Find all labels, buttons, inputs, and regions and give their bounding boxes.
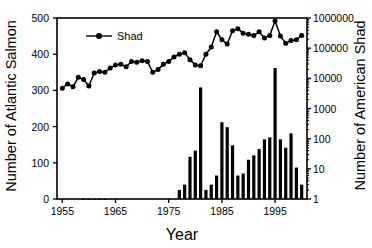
salmon-point-1996 <box>278 34 283 39</box>
plot-area <box>0 0 372 248</box>
bar-1998 <box>289 133 292 199</box>
salmon-point-1999 <box>294 37 299 42</box>
salmon-point-1960 <box>86 84 91 89</box>
salmon-point-1964 <box>108 65 113 70</box>
salmon-point-1957 <box>70 84 75 89</box>
bar-1961 <box>93 199 96 200</box>
bar-1999 <box>295 168 298 199</box>
salmon-point-1993 <box>262 35 267 40</box>
salmon-point-1985 <box>219 37 224 42</box>
salmon-point-1976 <box>172 55 177 60</box>
salmon-point-1987 <box>230 28 235 33</box>
salmon-point-1997 <box>283 41 288 46</box>
bar-1984 <box>215 176 218 199</box>
bar-1963 <box>103 199 106 200</box>
bar-1987 <box>231 145 234 199</box>
salmon-point-1959 <box>81 77 86 82</box>
bar-1980 <box>194 151 197 199</box>
bar-1959 <box>82 199 85 200</box>
salmon-point-1974 <box>161 62 166 67</box>
salmon-point-1978 <box>182 50 187 55</box>
bar-1978 <box>183 185 186 199</box>
legend-label-shad: Shad <box>117 30 143 42</box>
bar-1994 <box>268 137 271 199</box>
bar-1992 <box>258 149 261 199</box>
salmon-point-1969 <box>134 60 139 65</box>
salmon-point-1958 <box>76 75 81 80</box>
salmon-point-2000 <box>299 33 304 38</box>
salmon-point-1973 <box>156 67 161 72</box>
salmon-point-1955 <box>60 86 65 91</box>
salmon-point-1970 <box>140 58 145 63</box>
salmon-point-1980 <box>193 63 198 68</box>
salmon-point-1984 <box>214 29 219 34</box>
bar-1962 <box>98 199 101 200</box>
bar-2000 <box>300 185 303 199</box>
bar-1979 <box>188 157 191 199</box>
salmon-point-1989 <box>241 31 246 36</box>
salmon-point-1992 <box>257 29 262 34</box>
shad-bars <box>82 68 303 200</box>
bar-1985 <box>220 122 223 199</box>
chart-figure: Number of Atlantic Salmon Number of Amer… <box>0 0 372 248</box>
salmon-point-1968 <box>129 59 134 64</box>
salmon-point-1979 <box>187 57 192 62</box>
bar-1977 <box>178 190 181 199</box>
bar-1995 <box>273 68 276 199</box>
salmon-point-1988 <box>235 26 240 31</box>
salmon-point-1981 <box>198 63 203 68</box>
salmon-point-1956 <box>65 81 70 86</box>
salmon-point-1965 <box>113 63 118 68</box>
salmon-point-1975 <box>166 59 171 64</box>
salmon-point-1982 <box>203 52 208 57</box>
salmon-point-1991 <box>251 33 256 38</box>
bar-1983 <box>210 185 213 199</box>
bar-1989 <box>242 174 245 199</box>
salmon-point-1983 <box>209 44 214 49</box>
legend: Shad <box>86 30 143 42</box>
bar-1997 <box>284 148 287 199</box>
salmon-point-1961 <box>92 71 97 76</box>
bar-1986 <box>226 127 229 199</box>
salmon-point-1977 <box>177 52 182 57</box>
bar-1960 <box>87 199 90 200</box>
legend-line-marker-icon <box>86 31 112 41</box>
bar-1982 <box>204 190 207 199</box>
salmon-point-1962 <box>97 69 102 74</box>
bar-1988 <box>236 176 239 199</box>
salmon-point-1967 <box>124 64 129 69</box>
salmon-point-1990 <box>246 32 251 37</box>
bar-1993 <box>263 139 266 199</box>
bar-1991 <box>252 155 255 199</box>
salmon-point-1986 <box>225 42 230 47</box>
salmon-point-1994 <box>267 33 272 38</box>
salmon-point-1966 <box>118 62 123 67</box>
salmon-point-1963 <box>102 70 107 75</box>
salmon-point-1971 <box>145 59 150 64</box>
bar-1981 <box>199 87 202 199</box>
salmon-point-1998 <box>289 38 294 43</box>
salmon-point-1995 <box>273 18 278 23</box>
bar-1996 <box>279 139 282 199</box>
salmon-point-1972 <box>150 70 155 75</box>
bar-1990 <box>247 160 250 199</box>
